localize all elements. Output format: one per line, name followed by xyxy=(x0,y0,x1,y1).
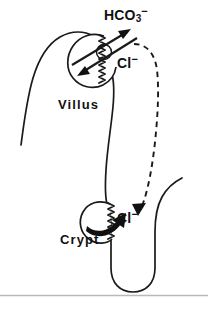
label-bicarbonate: HCO3− xyxy=(104,6,148,24)
label-chloride-crypt-superscript: − xyxy=(131,208,137,220)
label-chloride-villus: Cl− xyxy=(117,54,138,70)
crypt-lumen-outline xyxy=(107,178,182,292)
label-crypt: Crypt xyxy=(60,233,99,246)
cl-hco3-exchanger-circle xyxy=(97,45,112,60)
label-chloride-crypt: Cl− xyxy=(117,209,138,225)
label-bicarbonate-text: HCO xyxy=(104,7,136,23)
villus-lumen-right-outline xyxy=(105,74,114,204)
label-villus: Villus xyxy=(58,98,99,111)
figure-panel: HCO3− Cl− Cl− Villus Crypt xyxy=(0,0,208,309)
diagram-canvas xyxy=(0,0,208,309)
label-chloride-villus-superscript: − xyxy=(131,53,137,65)
label-chloride-villus-text: Cl xyxy=(117,55,131,71)
label-bicarbonate-superscript: − xyxy=(141,5,147,17)
label-chloride-crypt-text: Cl xyxy=(117,210,131,226)
